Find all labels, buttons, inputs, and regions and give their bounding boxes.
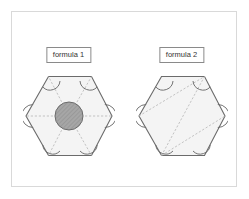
hexagon-diagram-2 [136, 70, 228, 162]
figure-frame: formula 1 [11, 11, 237, 187]
label-box-formula-2: formula 2 [159, 47, 204, 63]
hexagon-outline-2 [139, 77, 225, 156]
panel-formula-2: formula 2 [125, 12, 238, 188]
figure-canvas: formula 1 [0, 0, 249, 199]
inner-circle-1 [55, 102, 83, 130]
hexagon-diagram-1 [23, 70, 115, 162]
panel-formula-1: formula 1 [12, 12, 125, 188]
label-box-formula-1: formula 1 [46, 47, 91, 63]
